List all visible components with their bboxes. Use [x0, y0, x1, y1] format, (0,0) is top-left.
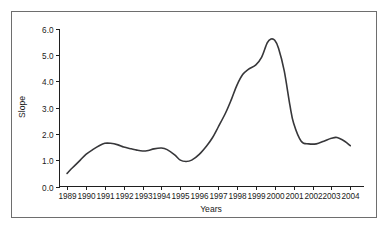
x-tick-label: 1997 — [209, 192, 228, 201]
x-tick-label: 1995 — [171, 192, 190, 201]
y-tick-labels: 0.01.02.03.04.05.06.0 — [42, 26, 54, 193]
x-tick-label: 2002 — [304, 192, 323, 201]
x-tick-label: 1991 — [96, 192, 115, 201]
x-tick-label: 2004 — [341, 192, 360, 201]
x-tick-label: 1992 — [115, 192, 134, 201]
x-tick-label: 1993 — [134, 192, 153, 201]
y-tick-label: 2.0 — [42, 131, 54, 140]
y-tick-label: 4.0 — [42, 78, 54, 87]
axes — [60, 29, 364, 187]
line-chart: 0.01.02.03.04.05.06.0 198919901991199219… — [0, 0, 390, 229]
figure-canvas: 0.01.02.03.04.05.06.0 198919901991199219… — [0, 0, 390, 229]
y-tick-marks — [56, 30, 60, 188]
y-tick-label: 5.0 — [42, 52, 54, 61]
x-tick-label: 1994 — [152, 192, 171, 201]
y-tick-label: 1.0 — [42, 157, 54, 166]
x-tick-label: 2001 — [285, 192, 304, 201]
x-tick-label: 1989 — [58, 192, 77, 201]
x-tick-label: 2003 — [322, 192, 341, 201]
x-tick-label: 1996 — [190, 192, 209, 201]
slope-data-curve — [67, 39, 350, 174]
x-tick-label: 2000 — [266, 192, 285, 201]
x-axis-label: Years — [200, 204, 222, 214]
x-tick-label: 1999 — [247, 192, 266, 201]
x-tick-labels: 1989199019911992199319941995199619971998… — [58, 192, 360, 201]
x-tick-label: 1990 — [77, 192, 96, 201]
y-tick-label: 0.0 — [42, 184, 54, 193]
x-tick-label: 1998 — [228, 192, 247, 201]
x-tick-marks — [68, 187, 351, 191]
y-tick-label: 3.0 — [42, 105, 54, 114]
y-axis-label: Slope — [17, 96, 27, 118]
y-tick-label: 6.0 — [42, 26, 54, 35]
